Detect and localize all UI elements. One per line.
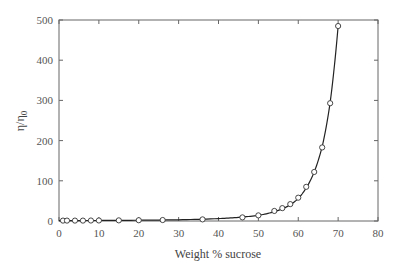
x-tick-labels: 01020304050607080 (56, 227, 384, 239)
data-markers (60, 23, 340, 223)
x-axis-label: Weight % sucrose (175, 247, 261, 261)
data-point (320, 145, 325, 150)
viscosity-chart: 01020304050607080 0100200300400500 Weigh… (0, 0, 404, 269)
data-point (272, 208, 277, 213)
data-point (304, 184, 309, 189)
x-tick-label: 70 (333, 227, 345, 239)
data-point (280, 206, 285, 211)
x-tick-label: 10 (93, 227, 105, 239)
y-tick-label: 200 (37, 135, 54, 147)
data-point (116, 218, 121, 223)
data-point (240, 215, 245, 220)
data-point (296, 195, 301, 200)
y-tick-label: 0 (48, 215, 54, 227)
plot-frame (59, 20, 378, 221)
data-point (256, 213, 261, 218)
y-tick-label: 500 (37, 14, 54, 26)
data-point (96, 218, 101, 223)
axis-ticks (59, 20, 378, 221)
data-point (328, 101, 333, 106)
y-tick-label: 100 (37, 175, 54, 187)
data-point (312, 169, 317, 174)
y-axis-label: η/η0 (13, 110, 29, 131)
y-axis-label-main: η/η (13, 115, 27, 131)
x-tick-label: 0 (56, 227, 62, 239)
y-tick-labels: 0100200300400500 (37, 14, 54, 227)
x-tick-label: 50 (253, 227, 265, 239)
x-tick-label: 60 (293, 227, 305, 239)
data-point (136, 218, 141, 223)
data-point (72, 218, 77, 223)
x-tick-label: 40 (213, 227, 225, 239)
data-point (80, 218, 85, 223)
fit-curve (59, 26, 338, 221)
data-point (200, 217, 205, 222)
data-point (288, 202, 293, 207)
y-axis-label-subscript: 0 (19, 110, 29, 115)
x-tick-label: 80 (373, 227, 385, 239)
y-tick-label: 400 (37, 54, 54, 66)
x-tick-label: 20 (133, 227, 145, 239)
data-point (64, 218, 69, 223)
data-point (160, 217, 165, 222)
data-point (88, 218, 93, 223)
data-point (336, 23, 341, 28)
y-tick-label: 300 (37, 94, 54, 106)
x-tick-label: 30 (173, 227, 185, 239)
